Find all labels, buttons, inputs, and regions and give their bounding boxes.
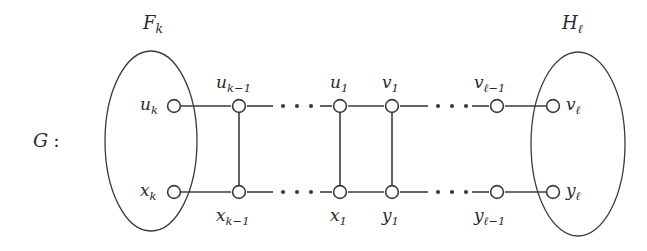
graph-diagram-svg xyxy=(0,0,647,251)
vertex-label-xk-minus-1: xk−1 xyxy=(216,207,250,227)
vertex-label-base: y xyxy=(382,205,392,225)
vertex-label-sub: k−1 xyxy=(227,81,251,95)
group-label-Hl: Hℓ xyxy=(562,14,583,35)
vertex-label-v1: v1 xyxy=(382,74,399,94)
vertex-label-xk: xk xyxy=(140,182,157,202)
vertex-label-uk-minus-1: uk−1 xyxy=(216,74,251,94)
ellipsis-dot xyxy=(436,190,440,194)
vertex-label-yl-minus-1: yℓ−1 xyxy=(474,207,505,227)
vertex-label-sub: k−1 xyxy=(226,214,250,228)
group-ellipse-Hl xyxy=(531,52,625,236)
group-label-Fk: Fk xyxy=(143,14,163,35)
vertex-label-base: v xyxy=(566,94,576,114)
vertex-vl-minus-1 xyxy=(491,100,504,113)
vertex-label-sub: 1 xyxy=(340,214,347,228)
group-ellipse-Fk xyxy=(105,51,197,231)
vertex-uk xyxy=(168,100,181,113)
ellipsis-dot xyxy=(295,190,299,194)
vertex-yl xyxy=(547,186,560,199)
vertex-label-sub: k xyxy=(150,189,157,203)
vertex-y1 xyxy=(386,186,399,199)
group-label-sub: ℓ xyxy=(578,22,583,36)
group-label-base: H xyxy=(562,12,578,33)
vertex-vl xyxy=(547,100,560,113)
vertex-v1 xyxy=(386,100,399,113)
graph-name-label: G: xyxy=(33,131,60,150)
ellipsis-dot xyxy=(295,104,299,108)
vertex-label-base: u xyxy=(140,94,151,114)
vertex-label-base: y xyxy=(566,180,576,200)
vertex-label-sub: 1 xyxy=(341,81,348,95)
vertex-label-sub: 1 xyxy=(392,81,399,95)
vertex-label-sub: 1 xyxy=(392,214,399,228)
group-label-sub: k xyxy=(156,22,163,36)
ellipsis-dot xyxy=(309,104,313,108)
ellipsis-dot xyxy=(464,190,468,194)
vertex-label-y1: y1 xyxy=(382,207,399,227)
vertex-yl-minus-1 xyxy=(491,186,504,199)
vertex-label-vl-minus-1: vℓ−1 xyxy=(474,74,505,94)
graph-name-text: G xyxy=(33,129,48,151)
vertex-label-base: v xyxy=(382,72,392,92)
vertex-label-vl: vℓ xyxy=(566,96,580,116)
vertex-label-sub: k xyxy=(151,103,158,117)
ellipsis-dot xyxy=(450,104,454,108)
vertex-label-base: x xyxy=(330,205,340,225)
vertex-label-sub: ℓ xyxy=(576,189,581,203)
vertex-label-base: x xyxy=(216,205,226,225)
ellipsis-dot xyxy=(281,104,285,108)
vertex-label-base: u xyxy=(216,72,227,92)
vertex-label-uk: uk xyxy=(140,96,158,116)
vertex-xk xyxy=(168,186,181,199)
vertex-label-base: y xyxy=(474,205,484,225)
vertex-label-base: u xyxy=(330,72,341,92)
vertex-label-base: v xyxy=(474,72,484,92)
vertex-label-sub: ℓ xyxy=(576,103,581,117)
vertex-label-sub: ℓ−1 xyxy=(484,81,506,95)
vertex-xk-minus-1 xyxy=(233,186,246,199)
ellipsis-dot xyxy=(464,104,468,108)
ellipsis-dot xyxy=(450,190,454,194)
vertex-uk-minus-1 xyxy=(233,100,246,113)
vertex-x1 xyxy=(334,186,347,199)
graph-figure: G: Fk Hℓ uk uk−1 u1 v1 vℓ−1 vℓ xk xk−1 x… xyxy=(0,0,647,251)
ellipsis-dot xyxy=(309,190,313,194)
vertex-u1 xyxy=(334,100,347,113)
vertex-label-x1: x1 xyxy=(330,207,347,227)
graph-name-separator: : xyxy=(48,129,59,151)
vertex-label-base: x xyxy=(140,180,150,200)
vertex-label-u1: u1 xyxy=(330,74,348,94)
ellipsis-dot xyxy=(436,104,440,108)
vertex-label-yl: yℓ xyxy=(566,182,580,202)
group-label-base: F xyxy=(143,12,156,33)
ellipsis-dot xyxy=(281,190,285,194)
vertex-label-sub: ℓ−1 xyxy=(484,214,506,228)
